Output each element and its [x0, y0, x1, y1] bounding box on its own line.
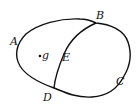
label-point: g	[42, 49, 49, 62]
inner-arc-B-to-D	[54, 23, 96, 88]
label-A: A	[9, 35, 18, 48]
label-E: E	[61, 51, 70, 64]
label-B: B	[95, 9, 104, 22]
region-diagram: A B C D E g	[0, 0, 139, 107]
point-dot	[39, 55, 42, 58]
label-C: C	[116, 75, 125, 88]
label-D: D	[42, 91, 52, 104]
outer-closed-curve	[17, 19, 130, 97]
